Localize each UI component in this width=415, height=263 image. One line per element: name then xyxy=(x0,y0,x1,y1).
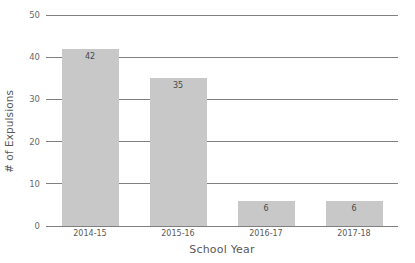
bar-value-label: 42 xyxy=(62,52,119,61)
y-tick-label: 50 xyxy=(22,10,40,20)
plot-area: 01020304050 423566 xyxy=(46,15,398,226)
y-axis-title: # of Expulsions xyxy=(0,0,18,263)
y-tick-label: 20 xyxy=(22,137,40,147)
y-tick-label: 10 xyxy=(22,179,40,189)
bar[interactable]: 6 xyxy=(326,201,383,226)
y-tick-label: 0 xyxy=(22,221,40,231)
x-tick-label: 2015-16 xyxy=(138,229,218,238)
bar[interactable]: 42 xyxy=(62,49,119,226)
gridline-50 xyxy=(46,15,398,16)
x-tick-label: 2016-17 xyxy=(226,229,306,238)
bar-chart: # of Expulsions 01020304050 423566 2014-… xyxy=(0,0,415,263)
bar-value-label: 6 xyxy=(326,204,383,213)
y-tick-label: 40 xyxy=(22,52,40,62)
bar-value-label: 6 xyxy=(238,204,295,213)
bar[interactable]: 6 xyxy=(238,201,295,226)
y-tick-label: 30 xyxy=(22,94,40,104)
x-axis-title: School Year xyxy=(46,243,398,256)
x-tick-label: 2014-15 xyxy=(50,229,130,238)
bar-value-label: 35 xyxy=(150,81,207,90)
bar[interactable]: 35 xyxy=(150,78,207,226)
x-tick-label: 2017-18 xyxy=(314,229,394,238)
